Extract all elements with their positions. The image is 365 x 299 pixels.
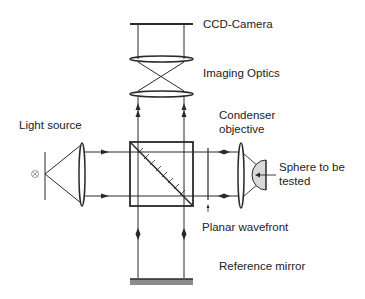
beam-cube-to-optics <box>138 97 184 142</box>
beam-splitter-cube <box>130 142 193 206</box>
label-planar-wavefront: Planar wavefront <box>202 220 288 234</box>
collimator-lens <box>79 143 85 206</box>
label-condenser-line2: objective <box>219 122 264 136</box>
label-sphere-line1: Sphere to be <box>279 160 345 174</box>
label-reference-mirror: Reference mirror <box>219 259 305 273</box>
beam-cube-to-mirror <box>138 206 184 278</box>
reference-mirror <box>130 279 193 285</box>
label-ccd-camera: CCD-Camera <box>203 17 273 31</box>
interferometer-diagram <box>0 0 365 299</box>
imaging-optics <box>130 56 193 97</box>
bidirectional-arrows-vertical <box>136 228 187 240</box>
label-sphere-line2: tested <box>279 174 310 188</box>
beam-lens-to-cube <box>85 152 130 196</box>
label-imaging-optics: Imaging Optics <box>203 66 280 80</box>
label-condenser-line1: Condenser <box>219 108 275 122</box>
beam-cube-to-condenser <box>193 152 238 196</box>
right-arrows <box>101 150 109 199</box>
imaging-lens-lower <box>130 91 193 97</box>
bidirectional-arrows-horizontal <box>218 150 230 199</box>
up-arrows <box>136 103 187 117</box>
beam-ccd-to-optics <box>138 24 184 59</box>
label-light-source: Light source <box>19 118 82 132</box>
condenser-lens <box>238 143 244 208</box>
planar-wavefront-pointer <box>207 204 210 212</box>
light-source <box>32 145 82 203</box>
